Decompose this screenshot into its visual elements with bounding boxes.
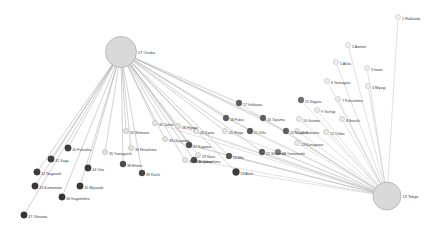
graph-node-29[interactable] [195, 152, 200, 157]
node-label-21: 21 Gifu [254, 132, 266, 136]
graph-node-25[interactable] [222, 128, 227, 133]
node-label-37: 37 Kagawa [193, 146, 211, 150]
graph-node-4[interactable] [365, 83, 370, 88]
node-label-14: 14 Kanagawa [301, 144, 323, 148]
node-label-18: 18 Fukui [230, 119, 244, 123]
graph-node-17[interactable] [236, 100, 242, 106]
graph-edge [339, 102, 380, 184]
node-label-45: 45 Miyazaki [84, 187, 103, 191]
graph-node-28[interactable] [175, 123, 180, 128]
node-label-23: 23 Aichi [240, 173, 253, 177]
edge-group-osaka [26, 58, 283, 212]
node-label-7: 7 Fukushima [342, 100, 363, 104]
graph-hub-node-27[interactable] [106, 37, 137, 68]
graph-node-30[interactable] [182, 157, 187, 162]
graph-node-9[interactable] [314, 107, 319, 112]
node-label-22: 22 Shizuoka [266, 153, 286, 157]
graph-node-42[interactable] [34, 169, 40, 175]
node-label-31: 31 Tottori [159, 124, 174, 128]
graph-node-40[interactable] [65, 145, 71, 151]
node-label-15: 15 Niigata [305, 101, 321, 105]
graph-node-33[interactable] [162, 136, 167, 141]
node-label-47: 47 Okinawa [28, 216, 47, 220]
node-label-28: 28 Hyogo [182, 127, 198, 131]
graph-edge [253, 132, 374, 190]
graph-node-22[interactable] [259, 149, 265, 155]
node-label-32: 32 Shimane [130, 132, 149, 136]
node-label-9: 9 Tochigi [321, 111, 335, 115]
hub-label-27: 27 Osaka [138, 51, 155, 55]
graph-node-45[interactable] [77, 183, 83, 189]
graph-node-20[interactable] [283, 128, 289, 134]
node-label-3: 3 Iwate [371, 69, 383, 73]
graph-node-24[interactable] [226, 153, 232, 159]
node-label-39: 39 Kochi [146, 174, 160, 178]
graph-node-47[interactable] [21, 212, 27, 218]
node-label-25: 25 Shiga [229, 132, 243, 136]
node-label-2: 2 Aomori [352, 46, 366, 50]
hub-label-13: 13 Tokyo [403, 195, 419, 199]
node-group [21, 14, 401, 218]
node-label-1: 1 Hokkaido [402, 18, 420, 22]
graph-node-10[interactable] [296, 116, 301, 121]
graph-node-41[interactable] [48, 156, 54, 162]
node-label-34: 34 Hiroshima [135, 149, 156, 153]
node-label-26: 26 Kyoto [200, 132, 214, 136]
graph-edge [132, 63, 234, 169]
graph-node-6[interactable] [324, 78, 329, 83]
graph-node-7[interactable] [335, 96, 340, 101]
graph-node-21[interactable] [247, 128, 253, 134]
graph-hub-node-13[interactable] [373, 182, 401, 210]
node-label-42: 42 Nagasaki [41, 173, 61, 177]
graph-edge [265, 153, 374, 191]
network-graph-figure: 1 Hokkaido2 Aomori5 Akita3 Iwate6 Yamaga… [0, 0, 440, 231]
graph-node-18[interactable] [223, 115, 229, 121]
graph-node-31[interactable] [152, 120, 157, 125]
graph-node-32[interactable] [123, 128, 128, 133]
graph-node-16[interactable] [260, 115, 266, 121]
graph-node-2[interactable] [345, 42, 350, 47]
graph-node-39[interactable] [139, 170, 145, 176]
node-label-5: 5 Akita [340, 63, 351, 67]
graph-edge [328, 134, 377, 186]
graph-edge [105, 67, 118, 149]
graph-node-8[interactable] [339, 116, 344, 121]
graph-node-3[interactable] [364, 65, 369, 70]
graph-edge [130, 64, 176, 123]
graph-edge [344, 122, 380, 184]
graph-node-38[interactable] [120, 161, 126, 167]
node-label-4: 4 Miyagi [372, 87, 386, 91]
graph-node-1[interactable] [395, 14, 400, 19]
graph-node-46[interactable] [59, 194, 65, 200]
node-label-36: 36 Tokushima [198, 161, 220, 165]
node-label-16: 16 Toyama [267, 119, 285, 123]
node-label-44: 44 Oita [92, 169, 104, 173]
node-label-24: 24 Mie [233, 157, 244, 161]
graph-node-5[interactable] [333, 59, 338, 64]
graph-edge [388, 20, 398, 182]
node-label-41: 41 Saga [55, 160, 69, 164]
graph-node-35[interactable] [102, 149, 107, 154]
graph-edge [70, 66, 114, 145]
node-label-43: 43 Kumamoto [39, 187, 62, 191]
node-label-38: 38 Ehime [127, 165, 142, 169]
node-label-10: 10 Gunma [303, 120, 320, 124]
graph-node-23[interactable] [233, 169, 240, 176]
node-label-40: 40 Fukuoka [72, 149, 91, 153]
graph-node-43[interactable] [32, 183, 38, 189]
node-label-46: 46 Kagoshima [66, 198, 89, 202]
graph-node-12[interactable] [323, 129, 328, 134]
graph-edge [89, 67, 117, 165]
node-label-33: 33 Okayama [169, 140, 190, 144]
node-label-20: 20 Nagano [290, 132, 308, 136]
node-label-35: 35 Yamaguchi [109, 153, 132, 157]
graph-edge [53, 65, 113, 156]
graph-node-34[interactable] [128, 145, 133, 150]
graph-node-15[interactable] [298, 97, 304, 103]
node-label-12: 12 Chiba [330, 133, 345, 137]
graph-node-44[interactable] [85, 165, 91, 171]
node-label-17: 17 Ishikawa [243, 104, 262, 108]
graph-node-14[interactable] [294, 140, 299, 145]
node-label-8: 8 Ibaraki [346, 120, 360, 124]
graph-edge [135, 59, 260, 117]
